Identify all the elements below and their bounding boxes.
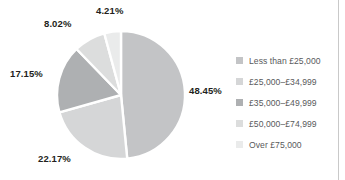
- legend-item-less-than-25000[interactable]: Less than £25,000: [236, 50, 336, 71]
- legend-swatch-icon: [236, 57, 243, 64]
- pie-value-label-less-than-25000: 48.45%: [189, 85, 222, 96]
- legend-item-over-75000[interactable]: Over £75,000: [236, 134, 336, 155]
- legend-item-label: £25,000–£34,999: [249, 77, 317, 87]
- pie-slice-group: [57, 31, 185, 159]
- pie-slice[interactable]: [121, 31, 185, 159]
- legend-swatch-icon: [236, 120, 243, 127]
- legend-item-label: Less than £25,000: [249, 56, 321, 66]
- legend-swatch-icon: [236, 78, 243, 85]
- legend-item-label: £35,000–£49,999: [249, 98, 317, 108]
- pie-value-label-25000-34999: 22.17%: [38, 153, 71, 164]
- legend-item-label: £50,000–£74,999: [249, 119, 317, 129]
- pie-value-label-over-75000: 4.21%: [96, 5, 123, 16]
- legend-item-35000-49999[interactable]: £35,000–£49,999: [236, 92, 336, 113]
- pie-chart-figure: 48.45% 22.17% 17.15% 8.02% 4.21% Less th…: [0, 0, 345, 180]
- pie-value-label-50000-74999: 8.02%: [44, 18, 71, 29]
- legend-item-label: Over £75,000: [249, 140, 302, 150]
- legend-item-25000-34999[interactable]: £25,000–£34,999: [236, 71, 336, 92]
- legend-swatch-icon: [236, 141, 243, 148]
- panel-divider: [338, 0, 339, 180]
- chart-legend: Less than £25,000 £25,000–£34,999 £35,00…: [236, 50, 336, 155]
- legend-swatch-icon: [236, 99, 243, 106]
- legend-item-50000-74999[interactable]: £50,000–£74,999: [236, 113, 336, 134]
- pie-value-label-35000-49999: 17.15%: [10, 68, 43, 79]
